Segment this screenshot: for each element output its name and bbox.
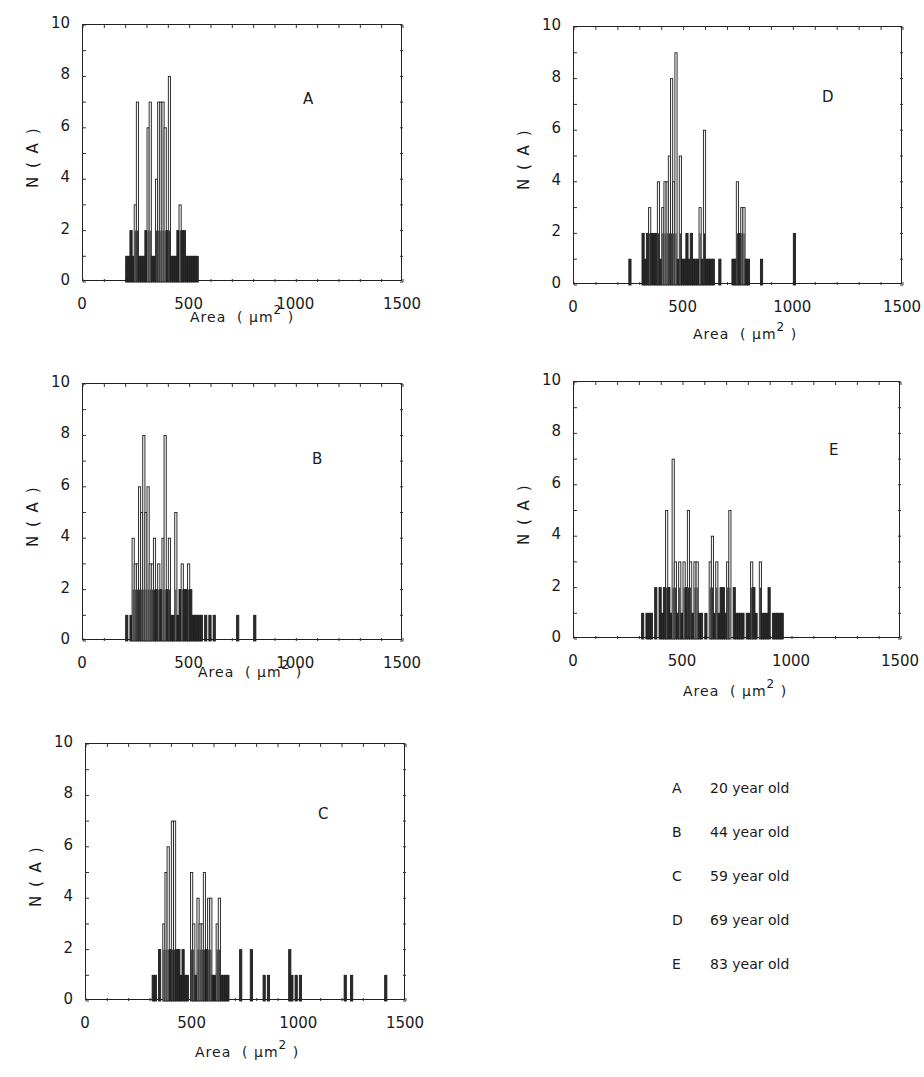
histogram-bar bbox=[295, 975, 297, 1001]
x-axis-label: Area ( μm2 ) bbox=[195, 1040, 299, 1060]
histogram-bar bbox=[742, 613, 744, 639]
y-tick-label: 4 bbox=[42, 527, 70, 545]
y-tick-label: 10 bbox=[42, 373, 70, 391]
y-tick-label: 4 bbox=[45, 887, 73, 905]
histogram-bar bbox=[213, 615, 215, 641]
histogram-bar bbox=[629, 259, 631, 285]
histogram-bar bbox=[200, 615, 202, 641]
histogram-bar bbox=[227, 975, 229, 1001]
histogram-bars bbox=[86, 744, 406, 1001]
x-tick-label: 1500 bbox=[875, 652, 924, 670]
histogram-bar bbox=[700, 613, 702, 639]
panel-letter: E bbox=[829, 441, 838, 459]
legend-label: 59 year old bbox=[710, 868, 789, 884]
histogram-bar bbox=[793, 233, 795, 285]
legend-key: E bbox=[672, 956, 681, 972]
y-axis-label: N ( A ) bbox=[515, 483, 533, 545]
x-tick-label: 1000 bbox=[273, 1014, 323, 1032]
x-tick-label: 500 bbox=[658, 298, 708, 316]
legend-label: 44 year old bbox=[710, 824, 789, 840]
y-tick-label: 6 bbox=[42, 476, 70, 494]
y-tick-label: 10 bbox=[533, 16, 561, 34]
legend-key: C bbox=[672, 868, 682, 884]
y-tick-label: 2 bbox=[42, 579, 70, 597]
histogram-bar bbox=[186, 975, 188, 1001]
y-tick-label: 0 bbox=[533, 628, 561, 646]
y-tick-label: 6 bbox=[42, 117, 70, 135]
plot-area bbox=[573, 381, 900, 638]
x-tick-label: 500 bbox=[167, 1014, 217, 1032]
x-tick-label: 1000 bbox=[766, 652, 816, 670]
x-tick-label: 0 bbox=[548, 652, 598, 670]
plot-area bbox=[82, 24, 402, 281]
histogram-bar bbox=[240, 950, 242, 1001]
x-tick-label: 0 bbox=[548, 298, 598, 316]
x-tick-label: 0 bbox=[60, 1014, 110, 1032]
histogram-bar bbox=[655, 588, 657, 639]
histogram-bar bbox=[237, 615, 239, 641]
y-tick-label: 6 bbox=[45, 836, 73, 854]
legend-key: A bbox=[672, 780, 682, 796]
y-axis-label: N ( A ) bbox=[24, 485, 42, 547]
histogram-bar bbox=[267, 975, 269, 1001]
x-tick-label: 1000 bbox=[767, 298, 817, 316]
panel-letter: D bbox=[822, 88, 834, 106]
y-tick-label: 8 bbox=[42, 65, 70, 83]
histogram-bar bbox=[712, 259, 714, 285]
y-tick-label: 8 bbox=[533, 422, 561, 440]
y-tick-label: 6 bbox=[533, 474, 561, 492]
histogram-bar bbox=[760, 259, 762, 285]
histogram-bar bbox=[344, 975, 346, 1001]
histogram-bar bbox=[196, 256, 198, 282]
y-tick-label: 2 bbox=[45, 939, 73, 957]
x-tick-label: 1500 bbox=[377, 654, 427, 672]
x-axis-label: Area ( μm2 ) bbox=[683, 679, 787, 699]
panel-letter: A bbox=[303, 90, 313, 108]
histogram-bars bbox=[574, 27, 903, 285]
x-tick-label: 1500 bbox=[377, 295, 427, 313]
histogram-bar bbox=[719, 259, 721, 285]
y-tick-label: 6 bbox=[533, 119, 561, 137]
histogram-bars bbox=[574, 382, 901, 639]
y-tick-label: 10 bbox=[42, 14, 70, 32]
histogram-bar bbox=[205, 615, 207, 641]
plot-area bbox=[573, 26, 902, 284]
panel-letter: B bbox=[312, 450, 322, 468]
y-tick-label: 10 bbox=[533, 371, 561, 389]
x-tick-label: 0 bbox=[57, 295, 107, 313]
histogram-bar bbox=[650, 613, 652, 639]
histogram-bar bbox=[705, 613, 707, 639]
legend-key: B bbox=[672, 824, 682, 840]
y-tick-label: 4 bbox=[533, 525, 561, 543]
histogram-bars bbox=[83, 384, 403, 641]
y-tick-label: 0 bbox=[45, 990, 73, 1008]
histogram-bar bbox=[250, 950, 252, 1001]
x-tick-label: 0 bbox=[57, 654, 107, 672]
histogram-bar bbox=[755, 613, 757, 639]
legend-label: 69 year old bbox=[710, 912, 789, 928]
y-tick-label: 4 bbox=[533, 171, 561, 189]
legend-label: 83 year old bbox=[710, 956, 789, 972]
x-tick-label: 1500 bbox=[380, 1014, 430, 1032]
histogram-bar bbox=[747, 259, 749, 285]
y-tick-label: 0 bbox=[42, 630, 70, 648]
histogram-bar bbox=[642, 613, 644, 639]
y-tick-label: 0 bbox=[42, 271, 70, 289]
y-tick-label: 2 bbox=[42, 220, 70, 238]
y-axis-label: N ( A ) bbox=[24, 126, 42, 188]
histogram-bars bbox=[83, 25, 403, 282]
x-tick-label: 1500 bbox=[877, 298, 924, 316]
histogram-bar bbox=[254, 615, 256, 641]
x-tick-label: 500 bbox=[657, 652, 707, 670]
plot-area bbox=[85, 743, 405, 1000]
histogram-bar bbox=[291, 975, 293, 1001]
y-axis-label: N ( A ) bbox=[27, 845, 45, 907]
histogram-bar bbox=[263, 975, 265, 1001]
legend-label: 20 year old bbox=[710, 780, 789, 796]
x-axis-label: Area ( μm2 ) bbox=[198, 660, 302, 680]
y-tick-label: 8 bbox=[45, 784, 73, 802]
histogram-bar bbox=[126, 615, 128, 641]
histogram-bar bbox=[385, 975, 387, 1001]
histogram-bar bbox=[299, 975, 301, 1001]
histogram-bar bbox=[781, 613, 783, 639]
